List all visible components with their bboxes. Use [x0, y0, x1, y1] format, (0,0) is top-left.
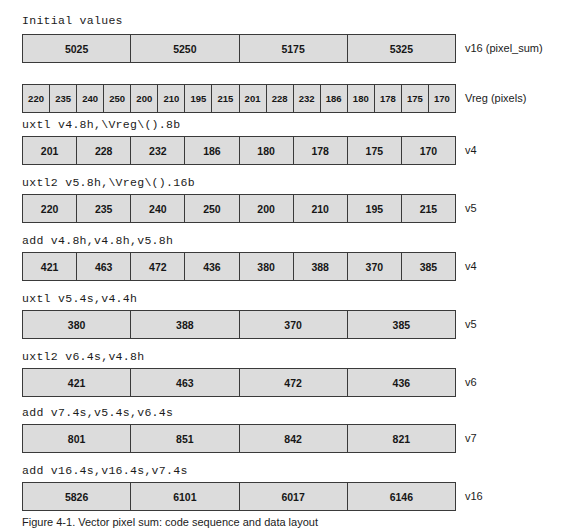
register-label: v16 (pixel_sum): [465, 42, 564, 54]
register-lane: 421: [23, 253, 77, 280]
register-bar: 220 235 240 250 200 210 195 215 201 228 …: [22, 84, 456, 113]
register-lane: 463: [131, 369, 239, 396]
register-label: Vreg (pixels): [465, 92, 564, 104]
register-lane: 215: [212, 85, 239, 112]
register-lane: 186: [321, 85, 348, 112]
register-lane: 801: [23, 425, 131, 452]
register-lane: 180: [348, 85, 375, 112]
register-lane: 380: [23, 311, 131, 338]
register-lane: 220: [23, 85, 50, 112]
register-lane: 421: [23, 369, 131, 396]
register-lane: 201: [23, 137, 77, 164]
register-lane: 210: [294, 195, 348, 222]
register-lane: 385: [348, 311, 455, 338]
register-lane: 178: [294, 137, 348, 164]
register-lane: 436: [185, 253, 239, 280]
register-lane: 5250: [131, 35, 239, 62]
register-lane: 235: [50, 85, 77, 112]
register-lane: 200: [240, 195, 294, 222]
register-lane: 388: [131, 311, 239, 338]
instruction-label: add v16.4s,v16.4s,v7.4s: [22, 464, 188, 477]
register-lane: 5826: [23, 483, 131, 510]
instruction-label: add v4.8h,v4.8h,v5.8h: [22, 234, 173, 247]
instruction-label: uxtl2 v6.4s,v4.8h: [22, 350, 144, 363]
register-label: v7: [465, 432, 564, 444]
register-label: v4: [465, 144, 564, 156]
register-lane: 5025: [23, 35, 131, 62]
register-lane: 175: [402, 85, 429, 112]
register-lane: 201: [240, 85, 267, 112]
register-lane: 170: [402, 137, 455, 164]
register-lane: 436: [348, 369, 455, 396]
register-lane: 200: [131, 85, 158, 112]
register-lane: 5175: [240, 35, 348, 62]
register-lane: 195: [348, 195, 402, 222]
register-label: v16: [465, 490, 564, 502]
register-lane: 6017: [240, 483, 348, 510]
register-lane: 370: [348, 253, 402, 280]
instruction-label: uxtl v5.4s,v4.4h: [22, 292, 137, 305]
register-lane: 175: [348, 137, 402, 164]
register-bar: 380 388 370 385: [22, 310, 456, 339]
register-lane: 842: [240, 425, 348, 452]
register-lane: 380: [240, 253, 294, 280]
register-lane: 186: [185, 137, 239, 164]
register-lane: 472: [240, 369, 348, 396]
register-lane: 178: [375, 85, 402, 112]
register-lane: 370: [240, 311, 348, 338]
register-lane: 250: [104, 85, 131, 112]
register-lane: 385: [402, 253, 455, 280]
register-lane: 6146: [348, 483, 455, 510]
register-label: v4: [465, 260, 564, 272]
register-lane: 170: [429, 85, 455, 112]
register-lane: 195: [185, 85, 212, 112]
register-lane: 240: [77, 85, 104, 112]
instruction-label: uxtl v4.8h,\Vreg\().8b: [22, 118, 180, 131]
instruction-label: add v7.4s,v5.4s,v6.4s: [22, 406, 173, 419]
register-bar: 801 851 842 821: [22, 424, 456, 453]
register-lane: 220: [23, 195, 77, 222]
register-lane: 232: [294, 85, 321, 112]
register-bar: 201 228 232 186 180 178 175 170: [22, 136, 456, 165]
register-lane: 851: [131, 425, 239, 452]
register-lane: 463: [77, 253, 131, 280]
register-lane: 215: [402, 195, 455, 222]
register-lane: 250: [185, 195, 239, 222]
register-lane: 232: [131, 137, 185, 164]
register-lane: 210: [158, 85, 185, 112]
register-bar: 220 235 240 250 200 210 195 215: [22, 194, 456, 223]
register-lane: 235: [77, 195, 131, 222]
register-bar: 421 463 472 436 380 388 370 385: [22, 252, 456, 281]
register-bar: 5826 6101 6017 6146: [22, 482, 456, 511]
figure-caption: Figure 4-1. Vector pixel sum: code seque…: [22, 516, 318, 528]
register-lane: 240: [131, 195, 185, 222]
register-lane: 388: [294, 253, 348, 280]
register-lane: 6101: [131, 483, 239, 510]
register-lane: 228: [77, 137, 131, 164]
register-bar: 5025 5250 5175 5325: [22, 34, 456, 63]
register-lane: 228: [267, 85, 294, 112]
register-label: v6: [465, 376, 564, 388]
register-label: v5: [465, 318, 564, 330]
register-bar: 421 463 472 436: [22, 368, 456, 397]
register-lane: 5325: [348, 35, 455, 62]
register-lane: 821: [348, 425, 455, 452]
instruction-label: uxtl2 v5.8h,\Vreg\().16b: [22, 176, 195, 189]
register-label: v5: [465, 202, 564, 214]
register-lane: 180: [240, 137, 294, 164]
register-lane: 472: [131, 253, 185, 280]
section-heading-initial-values: Initial values: [22, 14, 123, 27]
